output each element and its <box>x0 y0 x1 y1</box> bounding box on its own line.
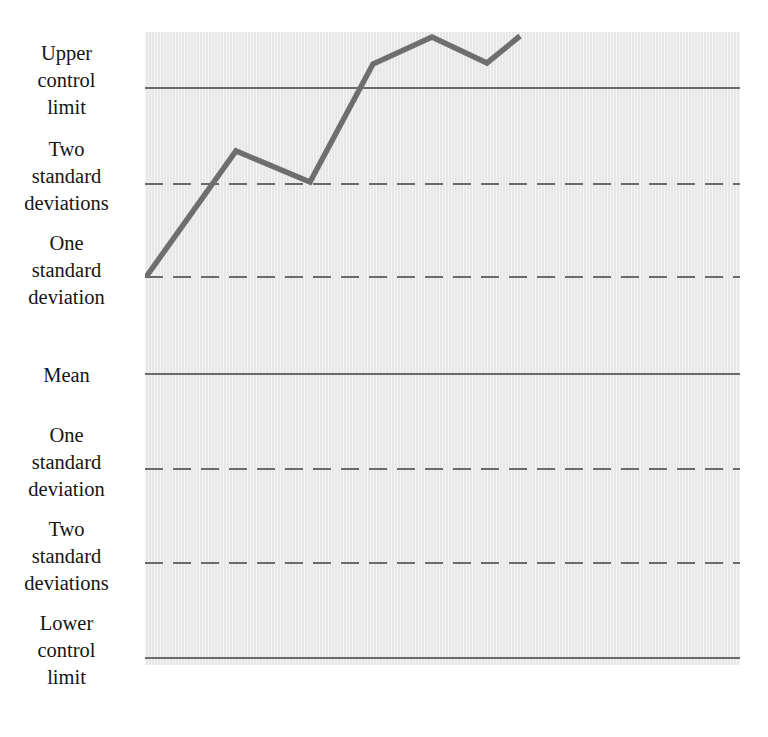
label-lower-control-limit: Lower control limit <box>0 610 133 691</box>
label-mean: Mean <box>0 362 133 389</box>
label-one-standard-deviation-lower: One standard deviation <box>0 422 133 503</box>
plot-svg <box>145 32 740 665</box>
reference-lines-group <box>145 88 740 658</box>
label-two-standard-deviations-lower: Two standard deviations <box>0 516 133 597</box>
label-two-standard-deviations-upper: Two standard deviations <box>0 136 133 217</box>
axis-label-column: Upper control limit Two standard deviati… <box>0 0 133 737</box>
data-series-group <box>146 36 520 277</box>
label-upper-control-limit: Upper control limit <box>0 40 133 121</box>
control-chart: Upper control limit Two standard deviati… <box>0 0 768 737</box>
data-line-sample-measurement <box>146 36 520 277</box>
label-one-standard-deviation-upper: One standard deviation <box>0 230 133 311</box>
plot-area <box>145 32 740 665</box>
